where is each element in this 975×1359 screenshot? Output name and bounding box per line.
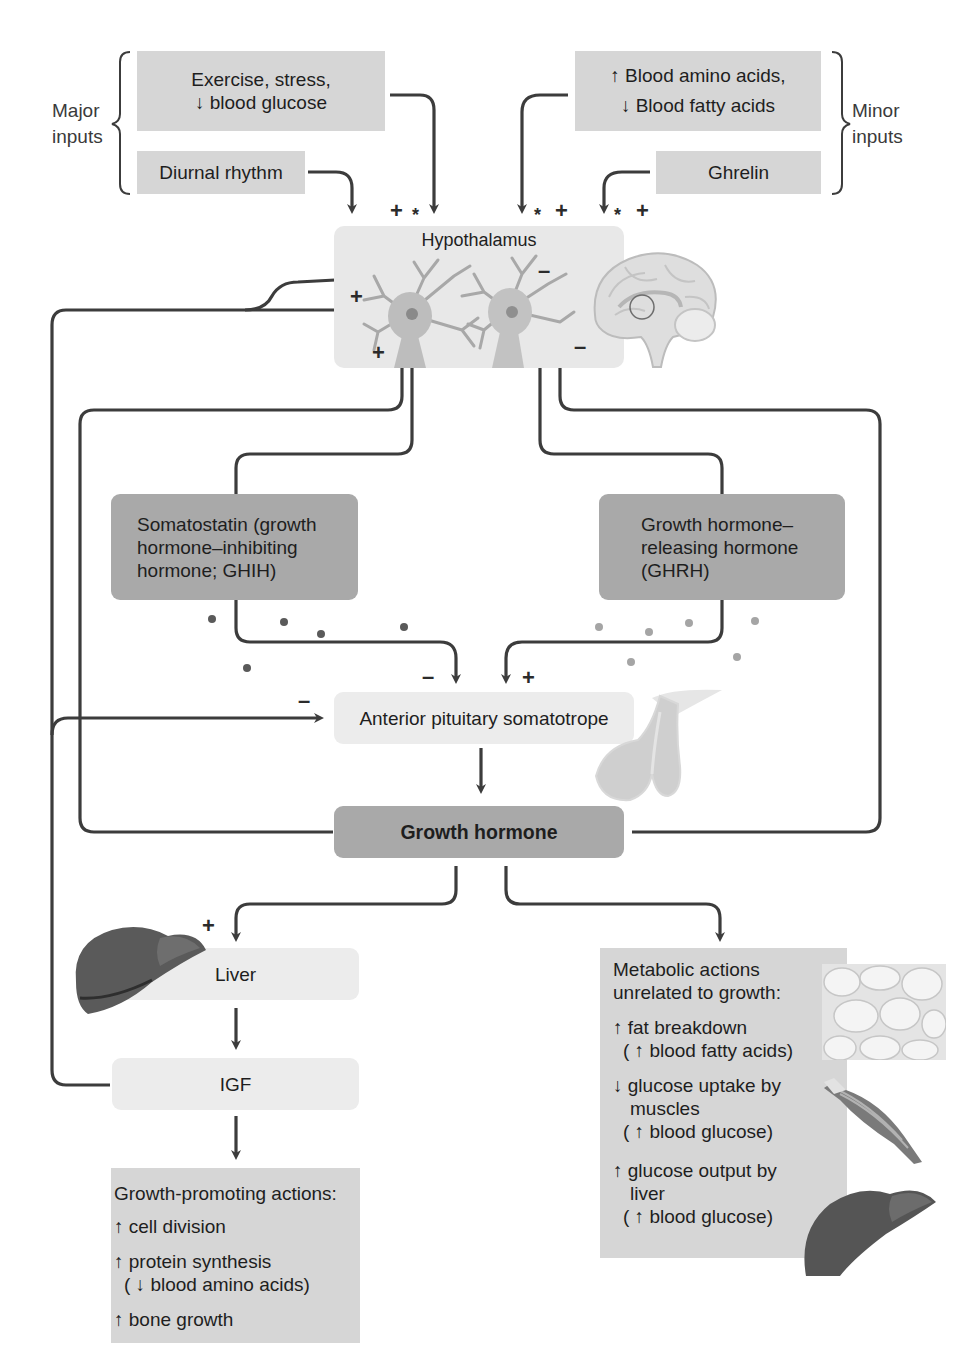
growth-action-item: ↑ protein synthesis bbox=[114, 1250, 271, 1273]
growth-actions-title: Growth-promoting actions: bbox=[114, 1182, 337, 1205]
major-inputs-line1: Major bbox=[52, 98, 103, 124]
adipose-tissue-icon bbox=[822, 964, 946, 1060]
input-ghrelin-label: Ghrelin bbox=[708, 161, 769, 184]
growth-action-item: ↑ bone growth bbox=[114, 1308, 233, 1331]
somatostatin-line2: hormone–inhibiting bbox=[137, 536, 298, 559]
minor-inputs-line2: inputs bbox=[852, 124, 903, 150]
input-exercise-stress: Exercise, stress, ↓ blood glucose bbox=[137, 51, 385, 131]
star-mark: * bbox=[534, 206, 541, 224]
liver-icon bbox=[800, 1180, 940, 1280]
muscle-icon bbox=[820, 1078, 930, 1168]
input-diurnal-rhythm: Diurnal rhythm bbox=[137, 151, 305, 194]
growth-action-subitem: ( ↓ blood amino acids) bbox=[114, 1273, 310, 1296]
input-exercise-line1: Exercise, stress, bbox=[191, 68, 330, 91]
metabolic-action-subitem: ( ↑ blood glucose) bbox=[613, 1120, 773, 1143]
growth-action-item: ↑ cell division bbox=[114, 1215, 226, 1238]
ghrh-line3: (GHRH) bbox=[641, 559, 710, 582]
minus-sign: – bbox=[422, 666, 434, 688]
liver-label: Liver bbox=[215, 963, 256, 986]
major-inputs-line2: inputs bbox=[52, 124, 103, 150]
somatotrope-label: Anterior pituitary somatotrope bbox=[359, 707, 608, 730]
metabolic-action-item: ↑ glucose output by bbox=[613, 1159, 777, 1182]
somatostatin-line3: hormone; GHIH) bbox=[137, 559, 276, 582]
ghrh-box: Growth hormone– releasing hormone (GHRH) bbox=[599, 494, 845, 600]
somatostatin-box: Somatostatin (growth hormone–inhibiting … bbox=[111, 494, 358, 600]
liver-icon bbox=[72, 922, 212, 1018]
growth-actions-box: Growth-promoting actions: ↑ cell divisio… bbox=[111, 1168, 360, 1343]
metabolic-action-subitem: ( ↑ blood fatty acids) bbox=[613, 1039, 793, 1062]
plus-sign: + bbox=[202, 915, 215, 937]
plus-sign: + bbox=[350, 286, 363, 308]
brain-icon bbox=[585, 245, 725, 375]
input-ghrelin: Ghrelin bbox=[656, 151, 821, 194]
input-diurnal-label: Diurnal rhythm bbox=[159, 161, 283, 184]
igf-label: IGF bbox=[220, 1073, 252, 1096]
metabolic-action-item: ↑ fat breakdown bbox=[613, 1016, 747, 1039]
pituitary-icon bbox=[582, 686, 732, 806]
metabolic-title-line1: Metabolic actions bbox=[613, 958, 760, 981]
plus-sign: + bbox=[390, 200, 403, 222]
input-amino-fatty-acids: ↑ Blood amino acids, ↓ Blood fatty acids bbox=[575, 51, 821, 131]
metabolic-action-subitem: ( ↑ blood glucose) bbox=[613, 1205, 773, 1228]
major-inputs-label: Major inputs bbox=[52, 98, 103, 150]
minus-sign: – bbox=[538, 260, 550, 282]
growth-hormone-box: Growth hormone bbox=[334, 806, 624, 858]
ghrh-line1: Growth hormone– bbox=[641, 513, 793, 536]
minor-inputs-label: Minor inputs bbox=[852, 98, 903, 150]
metabolic-title-line2: unrelated to growth: bbox=[613, 981, 781, 1004]
minus-sign: – bbox=[298, 690, 310, 712]
somatostatin-line1: Somatostatin (growth bbox=[137, 513, 317, 536]
metabolic-action-item-cont: muscles bbox=[613, 1097, 700, 1120]
minor-inputs-line1: Minor bbox=[852, 98, 903, 124]
plus-sign: + bbox=[555, 200, 568, 222]
igf-box: IGF bbox=[112, 1058, 359, 1110]
minus-sign: – bbox=[574, 336, 586, 358]
ghrh-line2: releasing hormone bbox=[641, 536, 798, 559]
input-amino-line1: ↑ Blood amino acids, bbox=[610, 61, 785, 91]
star-mark: * bbox=[412, 206, 419, 224]
growth-hormone-label: Growth hormone bbox=[400, 821, 557, 844]
metabolic-action-item: ↓ glucose uptake by bbox=[613, 1074, 781, 1097]
plus-sign: + bbox=[372, 342, 385, 364]
star-mark: * bbox=[614, 206, 621, 224]
metabolic-action-item-cont: liver bbox=[613, 1182, 665, 1205]
plus-sign: + bbox=[522, 667, 535, 689]
input-amino-line2: ↓ Blood fatty acids bbox=[621, 91, 775, 121]
input-exercise-line2: ↓ blood glucose bbox=[195, 91, 327, 114]
plus-sign: + bbox=[636, 200, 649, 222]
